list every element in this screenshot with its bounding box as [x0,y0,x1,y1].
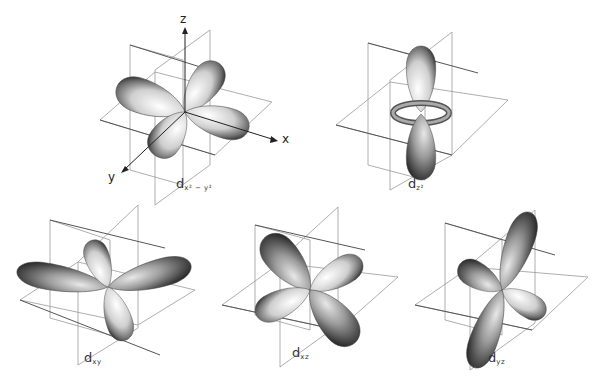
y-axis-label: y [108,170,115,184]
orbital-label-dyz: dyz [488,350,505,366]
orbital-panel-dyz: dyz [410,195,604,382]
dyz-orbital-illustration [410,195,604,382]
orbital-label-dxy: dxy [84,350,102,366]
dz2-orbital-illustration [320,0,520,200]
dxz-orbital-illustration [220,195,410,382]
orbital-label-dx2-y2: dx² − y² [176,176,212,192]
orbital-panel-dx2-y2: z x y dx² − y² [0,0,300,200]
x-axis-label: x [282,132,289,146]
orbital-panel-dz2: dz² [320,0,520,200]
z-axis-label: z [180,12,186,26]
orbital-label-dxz: dxz [292,345,309,361]
orbital-panel-dxz: dxz [220,195,410,382]
orbital-panel-dxy: dxy [20,200,220,382]
dx2-y2-orbital-illustration [0,0,300,200]
orbital-label-dz2: dz² [408,176,424,192]
dxy-orbital-illustration [20,200,220,382]
